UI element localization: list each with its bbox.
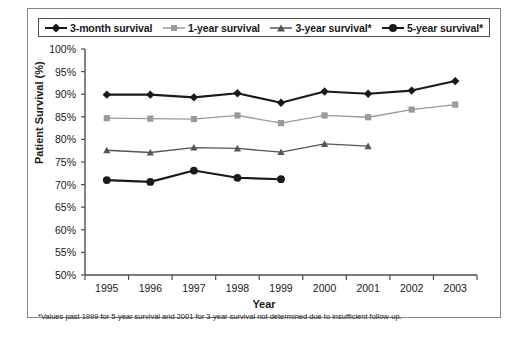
data-point-marker bbox=[191, 116, 197, 122]
y-axis-tick-label: 65% bbox=[55, 201, 76, 213]
x-axis-tick-label: 2003 bbox=[444, 282, 467, 294]
data-point-marker bbox=[233, 89, 241, 97]
legend-marker-triangle-icon bbox=[270, 22, 292, 34]
legend-label: 5-year survival* bbox=[407, 22, 483, 34]
x-axis-tick-label: 1996 bbox=[139, 282, 162, 294]
chart-legend: 3-month survival 1-year survival bbox=[38, 18, 490, 37]
data-point-marker bbox=[103, 176, 111, 184]
legend-label: 1-year survival bbox=[188, 22, 260, 34]
y-axis-tick-label: 90% bbox=[55, 88, 76, 100]
legend-label: 3-month survival bbox=[70, 22, 152, 34]
data-point-marker bbox=[104, 115, 110, 121]
data-point-marker bbox=[190, 167, 198, 175]
data-point-marker bbox=[146, 178, 154, 186]
data-point-marker bbox=[103, 90, 111, 98]
data-point-marker bbox=[409, 106, 415, 112]
data-point-marker bbox=[452, 101, 458, 107]
x-axis-tick-label: 1999 bbox=[269, 282, 292, 294]
legend-marker-circle-icon bbox=[382, 22, 404, 34]
legend-item-3-month-survival: 3-month survival bbox=[45, 22, 152, 34]
x-axis-tick-label: 1995 bbox=[95, 282, 118, 294]
data-point-marker bbox=[278, 120, 284, 126]
x-axis-tick-label: 1998 bbox=[226, 282, 249, 294]
plot-svg bbox=[85, 49, 477, 275]
y-axis-tick-label: 100% bbox=[49, 43, 76, 55]
data-point-marker bbox=[234, 174, 242, 182]
data-point-marker bbox=[277, 99, 285, 107]
y-axis-tick-label: 55% bbox=[55, 246, 76, 258]
data-point-marker bbox=[190, 93, 198, 101]
y-axis-tick-label: 80% bbox=[55, 133, 76, 145]
data-point-marker bbox=[321, 112, 327, 118]
x-axis-tick-label: 2001 bbox=[356, 282, 379, 294]
y-axis-tick-label: 50% bbox=[55, 269, 76, 281]
data-point-marker bbox=[320, 87, 328, 95]
y-axis-tick-label: 95% bbox=[55, 66, 76, 78]
data-point-marker bbox=[451, 77, 459, 85]
x-axis-tick-label: 2002 bbox=[400, 282, 423, 294]
data-point-marker bbox=[407, 86, 415, 94]
legend-marker-diamond-icon bbox=[45, 22, 67, 34]
legend-item-1-year-survival: 1-year survival bbox=[163, 22, 260, 34]
legend-item-3-year-survival: 3-year survival* bbox=[270, 22, 371, 34]
data-point-marker bbox=[234, 112, 240, 118]
chart-frame: 3-month survival 1-year survival bbox=[27, 8, 501, 318]
legend-marker-square-icon bbox=[163, 22, 185, 34]
y-axis-tick-label: 85% bbox=[55, 111, 76, 123]
data-point-marker bbox=[364, 90, 372, 98]
y-axis-tick-label: 60% bbox=[55, 224, 76, 236]
y-axis-title: Patient Survival (%) bbox=[33, 61, 45, 164]
data-point-marker bbox=[365, 114, 371, 120]
y-axis-tick-label: 75% bbox=[55, 156, 76, 168]
data-point-marker bbox=[277, 175, 285, 183]
data-point-marker bbox=[147, 116, 153, 122]
x-axis-tick-label: 1997 bbox=[182, 282, 205, 294]
y-axis-tick-label: 70% bbox=[55, 179, 76, 191]
x-axis-tick-label: 2000 bbox=[313, 282, 336, 294]
legend-label: 3-year survival* bbox=[295, 22, 371, 34]
figure-container: 3-month survival 1-year survival bbox=[0, 0, 527, 355]
data-point-marker bbox=[146, 90, 154, 98]
legend-item-5-year-survival: 5-year survival* bbox=[382, 22, 483, 34]
chart-footnote: *Values past 1999 for 5-year survival an… bbox=[38, 312, 498, 321]
x-axis-title: Year bbox=[28, 298, 500, 310]
plot-area: 100%95%90%85%80%75%70%65%60%55%50% 19951… bbox=[85, 49, 477, 275]
